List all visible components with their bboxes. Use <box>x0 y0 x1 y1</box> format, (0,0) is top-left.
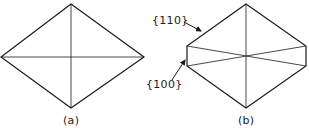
face-100-label: {100} <box>146 79 183 90</box>
panel-b-truncated-rhombus <box>187 4 306 108</box>
panel-b-caption: (b) <box>238 115 254 126</box>
face-110-label: {110} <box>152 15 189 26</box>
panel-a-rhombus <box>1 4 144 108</box>
arrow-100 <box>172 60 185 80</box>
panel-a-caption: (a) <box>63 115 79 126</box>
